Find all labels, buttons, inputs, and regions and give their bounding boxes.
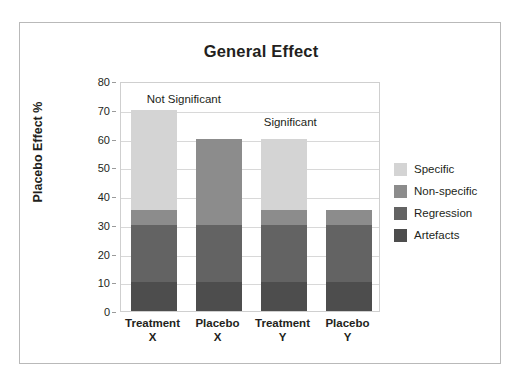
bar-placebo-x: [196, 139, 242, 312]
bar-treatment-y: [261, 139, 307, 312]
bar-segment-regression: [131, 225, 177, 283]
bar-segment-regression: [326, 225, 372, 283]
bar-segment-non-specific: [326, 210, 372, 224]
y-axis-tick-mark: [112, 82, 116, 83]
bar-segment-artefacts: [261, 282, 307, 311]
legend-label: Specific: [414, 163, 454, 175]
y-axis-title: Placebo Effect %: [31, 62, 45, 242]
chart-title: General Effect: [0, 42, 522, 61]
bar-segment-regression: [196, 225, 242, 283]
y-axis-tick-label: 10: [98, 277, 110, 289]
annotation-significant: Significant: [264, 116, 317, 128]
legend-label: Non-specific: [414, 185, 477, 197]
annotation-not-significant: Not Significant: [147, 93, 221, 105]
y-axis-tick-mark: [112, 140, 116, 141]
y-axis-tick-label: 70: [98, 105, 110, 117]
legend-swatch: [394, 207, 407, 220]
bar-segment-regression: [261, 225, 307, 283]
bar-segment-specific: [261, 139, 307, 211]
bar-treatment-x: [131, 110, 177, 311]
bar-segment-non-specific: [131, 210, 177, 224]
bar-segment-specific: [131, 110, 177, 211]
bar-segment-non-specific: [196, 139, 242, 225]
y-axis-tick-label: 80: [98, 76, 110, 88]
legend-item-artefacts: Artefacts: [394, 224, 494, 246]
plot-area: Not SignificantSignificant: [120, 82, 380, 312]
bar-segment-non-specific: [261, 210, 307, 224]
legend-item-specific: Specific: [394, 158, 494, 180]
y-axis-tick-label: 30: [98, 220, 110, 232]
x-axis-tick-labels: TreatmentXPlaceboXTreatmentYPlaceboY: [120, 316, 380, 356]
bar-segment-artefacts: [326, 282, 372, 311]
legend-label: Artefacts: [414, 229, 459, 241]
y-axis-tick-label: 50: [98, 162, 110, 174]
legend-item-non-specific: Non-specific: [394, 180, 494, 202]
chart-figure: General Effect Placebo Effect % 01020304…: [0, 0, 522, 386]
x-tick-line-1: Placebo: [325, 317, 369, 329]
y-axis-tick-mark: [112, 197, 116, 198]
bar-segment-artefacts: [196, 282, 242, 311]
y-axis-tick-mark: [112, 312, 116, 313]
y-axis-tick-mark: [112, 226, 116, 227]
legend-swatch: [394, 229, 407, 242]
legend-swatch: [394, 185, 407, 198]
x-tick-line-2: Y: [303, 330, 393, 344]
chart-legend: SpecificNon-specificRegressionArtefacts: [394, 158, 494, 246]
legend-item-regression: Regression: [394, 202, 494, 224]
y-axis-tick-label: 20: [98, 249, 110, 261]
x-axis-tick-label: PlaceboY: [303, 316, 393, 344]
x-tick-line-1: Placebo: [195, 317, 239, 329]
y-axis-tick-mark: [112, 111, 116, 112]
legend-label: Regression: [414, 207, 472, 219]
y-axis-tick-label: 60: [98, 134, 110, 146]
y-axis-tick-label: 40: [98, 191, 110, 203]
y-axis-tick-mark: [112, 283, 116, 284]
y-axis-tick-mark: [112, 168, 116, 169]
bar-segment-artefacts: [131, 282, 177, 311]
y-axis-tick-mark: [112, 255, 116, 256]
bar-placebo-y: [326, 210, 372, 311]
legend-swatch: [394, 163, 407, 176]
y-axis-tick-labels: 01020304050607080: [74, 82, 116, 312]
